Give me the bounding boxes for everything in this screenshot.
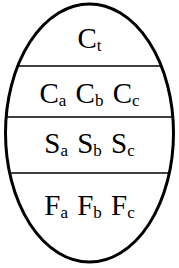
term-sub: c [127, 141, 135, 160]
term-fc: Fc [111, 190, 135, 228]
term-base: F [44, 189, 60, 221]
term-cb: Cb [76, 78, 104, 116]
term-sa: Sa [44, 128, 68, 166]
term-sub: a [60, 141, 68, 160]
term-base: S [77, 127, 93, 159]
term-sub: c [127, 203, 135, 222]
term-fb: Fb [77, 190, 102, 228]
layer-4: Fa Fb Fc [0, 190, 179, 228]
term-sub: b [93, 141, 102, 160]
term-base: C [76, 77, 95, 109]
term-base: C [77, 22, 96, 54]
term-sub: a [60, 203, 68, 222]
term-sub: c [132, 91, 140, 110]
term-sub: b [93, 203, 102, 222]
term-sub: t [97, 36, 102, 55]
layer-3: Sa Sb Sc [0, 128, 179, 166]
term-base: F [77, 189, 93, 221]
term-fa: Fa [44, 190, 68, 228]
term-sb: Sb [77, 128, 102, 166]
term-ca: Ca [39, 78, 66, 116]
term-ct: Ct [77, 23, 101, 61]
layer-2: Ca Cb Cc [0, 78, 179, 116]
term-sub: a [59, 91, 67, 110]
term-base: C [39, 77, 58, 109]
term-base: C [113, 77, 132, 109]
term-base: F [111, 189, 127, 221]
layer-top: Ct [0, 23, 179, 61]
term-base: S [44, 127, 60, 159]
term-base: S [111, 127, 127, 159]
term-sub: b [95, 91, 104, 110]
term-sc: Sc [111, 128, 135, 166]
term-cc: Cc [113, 78, 140, 116]
